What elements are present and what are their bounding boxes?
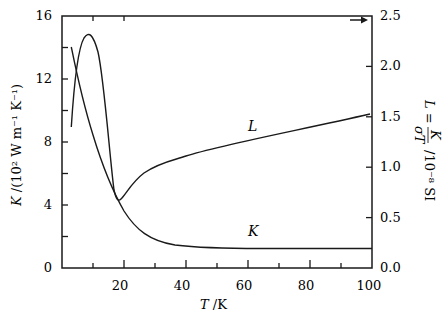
svg-text:0: 0 [44,260,52,275]
right-axis-title: L = K σT /10⁻⁸ SI [412,99,443,201]
svg-text:σT: σT [412,126,427,145]
right-tick-labels: 0.0 0.5 1.0 1.5 2.0 2.5 [380,8,401,275]
curve-L [71,35,370,201]
chart: L K 20 40 60 80 100 0 4 8 12 16 0.0 0.5 … [0,0,448,316]
svg-text:60: 60 [236,278,253,293]
arrow-right-icon [350,17,368,24]
svg-text:0.5: 0.5 [380,210,401,225]
svg-text:L =: L = [422,99,437,124]
svg-text:K: K [428,129,443,141]
svg-text:80: 80 [298,278,315,293]
x-tick-labels: 20 40 60 80 100 [112,278,382,293]
curve-K [71,47,372,249]
svg-text:0.0: 0.0 [380,260,401,275]
left-axis-title: K /(10² W m⁻¹ K⁻¹) [9,84,24,207]
curve-label-L: L [247,118,257,134]
curve-label-K: K [247,223,260,239]
svg-text:1.5: 1.5 [380,109,401,124]
left-axis-ticks [62,48,68,237]
svg-text:/10⁻⁸ SI: /10⁻⁸ SI [422,150,437,201]
right-axis-ticks [366,66,372,217]
svg-text:16: 16 [35,8,52,23]
left-tick-labels: 0 4 8 12 16 [35,8,52,275]
svg-text:100: 100 [357,278,382,293]
svg-text:20: 20 [112,278,129,293]
svg-text:1.0: 1.0 [380,159,401,174]
x-axis-ticks [93,16,341,268]
svg-text:2.5: 2.5 [380,8,401,23]
x-axis-title: T /K [200,297,227,312]
svg-text:4: 4 [44,197,52,212]
svg-text:12: 12 [35,71,52,86]
svg-text:2.0: 2.0 [380,58,401,73]
svg-text:40: 40 [174,278,191,293]
svg-text:8: 8 [44,134,52,149]
